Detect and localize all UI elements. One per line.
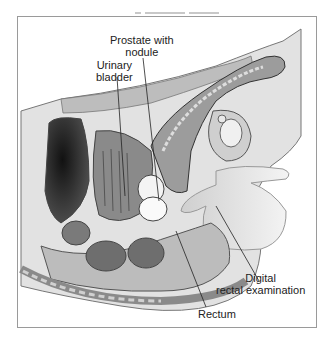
label-prostate: Prostate with nodule: [110, 34, 174, 58]
label-rectum: Rectum: [198, 308, 236, 320]
label-urinary-bladder: Urinary bladder: [96, 59, 133, 83]
label-digital-rectal-examination: Digital rectal examination: [216, 272, 305, 296]
cropped-caption-remnant: [135, 0, 235, 3]
prostate-nodule: [139, 197, 167, 221]
